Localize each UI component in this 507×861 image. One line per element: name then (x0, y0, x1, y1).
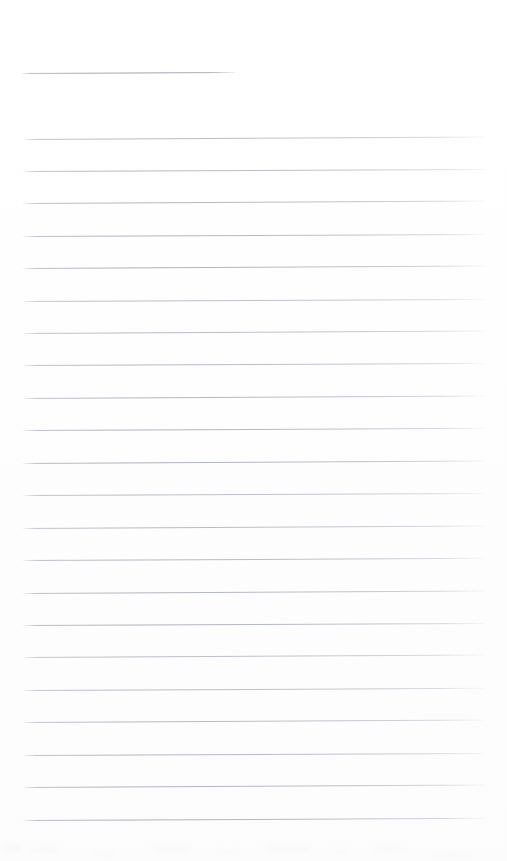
ruled-line (23, 137, 486, 140)
ruled-line (23, 461, 486, 464)
scan-smudge (430, 851, 474, 857)
scan-smudge (6, 843, 20, 853)
ruled-line (23, 234, 486, 237)
ruled-line (23, 526, 486, 529)
ruled-line (23, 655, 486, 658)
ruled-line (23, 169, 486, 172)
ruled-line (23, 299, 486, 302)
scan-smudge (92, 851, 118, 856)
ruled-line (23, 623, 486, 626)
scan-smudge (214, 850, 244, 855)
ruled-line (23, 818, 486, 821)
scan-smudge (262, 845, 310, 853)
paper-surface (0, 0, 507, 861)
ruled-line (23, 558, 486, 561)
scan-smudge-band (0, 840, 507, 860)
ruled-line (23, 753, 486, 756)
ruled-line (23, 720, 486, 723)
ruled-line (23, 591, 486, 594)
header-rule (22, 72, 236, 74)
ruled-line (23, 688, 486, 691)
scan-smudge (28, 848, 62, 854)
ruled-line (23, 266, 486, 269)
ruled-line (23, 363, 486, 366)
document-page (0, 0, 507, 861)
scan-smudge (372, 847, 408, 853)
ruled-line (23, 785, 486, 788)
ruled-line (23, 396, 486, 399)
scan-smudge (150, 846, 190, 853)
ruled-line (23, 201, 486, 204)
scan-smudge (330, 849, 352, 854)
ruled-line (23, 493, 486, 496)
ruled-line (23, 331, 486, 334)
ruled-line (23, 428, 486, 431)
